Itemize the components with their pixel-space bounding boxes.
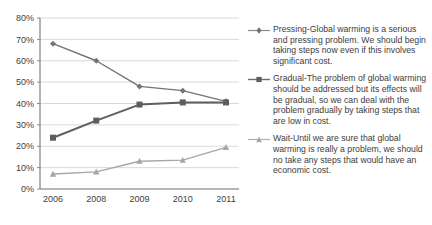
line-chart: 0%10%20%30%40%50%60%70%80%20062008200920… <box>0 0 432 225</box>
x-axis-tick-label: 2008 <box>86 194 106 204</box>
data-point-triangle-icon <box>223 144 229 150</box>
x-axis-tick-label: 2006 <box>43 194 63 204</box>
series-line <box>53 102 226 137</box>
legend-item-pressing[interactable]: Pressing-Global warming is a serious and… <box>248 24 432 66</box>
legend-key-square-icon <box>248 74 270 85</box>
plot-svg: 0%10%20%30%40%50%60%70%80%20062008200920… <box>0 0 246 225</box>
x-axis-tick-label: 2011 <box>216 194 235 204</box>
series-wait <box>50 144 229 177</box>
series-line <box>53 44 226 102</box>
data-point-square-icon <box>50 135 56 141</box>
y-axis-tick-label: 30% <box>16 120 34 130</box>
data-point-square-icon <box>223 99 229 105</box>
y-axis-tick-label: 40% <box>16 99 34 109</box>
legend-key-diamond-icon <box>248 25 270 36</box>
y-axis-tick-label: 20% <box>16 141 34 151</box>
legend-item-wait[interactable]: Wait-Until we are sure that global warmi… <box>248 133 432 175</box>
y-axis-tick-label: 70% <box>16 35 34 45</box>
data-point-square-icon <box>180 99 186 105</box>
legend-label-wait: Wait-Until we are sure that global warmi… <box>273 133 432 175</box>
y-axis-tick-label: 80% <box>16 13 34 23</box>
legend-label-gradual: Gradual-The problem of global warming sh… <box>273 73 432 126</box>
y-axis-tick-label: 10% <box>16 163 34 173</box>
data-point-square-icon <box>93 118 99 124</box>
chart-legend: Pressing-Global warming is a serious and… <box>248 24 432 204</box>
data-point-diamond-icon <box>50 41 56 47</box>
x-axis-tick-label: 2009 <box>129 194 149 204</box>
data-point-diamond-icon <box>137 83 143 89</box>
y-axis-tick-label: 0% <box>21 184 34 194</box>
plot-area: 0%10%20%30%40%50%60%70%80%20062008200920… <box>0 0 246 225</box>
y-axis-tick-label: 60% <box>16 56 34 66</box>
data-point-diamond-icon <box>93 58 99 64</box>
data-point-square-icon <box>137 102 143 108</box>
series-gradual <box>50 99 229 140</box>
x-axis-tick-label: 2010 <box>173 194 193 204</box>
data-point-diamond-icon <box>180 88 186 94</box>
series-pressing <box>50 41 229 105</box>
y-axis-tick-label: 50% <box>16 77 34 87</box>
legend-item-gradual[interactable]: Gradual-The problem of global warming sh… <box>248 73 432 126</box>
legend-key-triangle-icon <box>248 134 270 145</box>
legend-label-pressing: Pressing-Global warming is a serious and… <box>273 24 432 66</box>
